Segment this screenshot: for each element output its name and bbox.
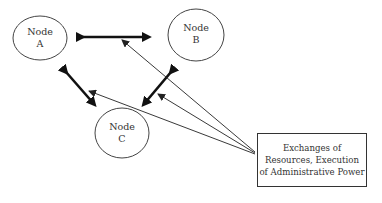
edge-a-c-arrow [66, 72, 94, 104]
node-b-label: Node B [176, 22, 216, 46]
exchanges-box-line2: Resources, Execution [259, 154, 364, 166]
node-b-label-line2: B [176, 34, 216, 46]
node-c-label-line1: Node [102, 121, 142, 133]
exchanges-box-line1: Exchanges of [259, 142, 364, 154]
node-c-label-line2: C [102, 133, 142, 145]
node-b-label-line1: Node [176, 22, 216, 34]
node-a-label: Node A [20, 26, 60, 50]
influence-arrow-b-c [158, 94, 255, 153]
node-c-label: Node C [102, 121, 142, 145]
exchanges-box-line3: of Administrative Power [259, 166, 364, 178]
node-a-label-line2: A [20, 38, 60, 50]
node-a-label-line1: Node [20, 26, 60, 38]
exchanges-box: Exchanges of Resources, Execution of Adm… [257, 133, 367, 187]
